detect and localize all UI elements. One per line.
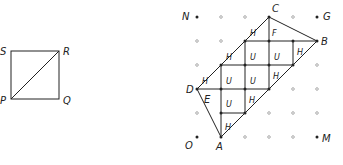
label-p: P [0,95,7,106]
grid-dot [268,136,271,139]
cell-label: U [250,53,256,62]
cell-label: H [249,96,255,105]
geometry-diagram: S R P Q HFHUUHHUUHEUHH N G O M C B D A [0,0,343,165]
grid-dot [196,112,199,115]
grid-dot [196,16,199,19]
cell-label: U [250,77,256,86]
cell-label: H [202,77,208,86]
cell-label: H [226,53,232,62]
grid-dot [196,64,199,67]
label-n: N [182,11,190,22]
cell-label: H [297,48,303,57]
cell-label: F [272,29,277,38]
grid-dot [220,40,223,43]
label-r: R [63,46,70,57]
label-g: G [323,11,331,22]
cell-label: U [226,100,232,109]
cell-label: H [225,123,231,132]
square-pqrs: S R P Q [0,46,71,106]
grid-dot [316,16,319,19]
grid-dot [292,136,295,139]
cell-label: H [250,29,256,38]
grid-dot [316,64,319,67]
grid-dot [292,16,295,19]
grid-dot [244,16,247,19]
dot-grid [196,16,319,139]
grid-dot [244,136,247,139]
label-a: A [215,141,223,152]
cell-labels: HFHUUHHUUHEUHH [202,29,303,132]
grid-dot [268,112,271,115]
grid-dot [292,112,295,115]
grid-dot [220,16,223,19]
label-b: B [321,36,328,47]
grid-dot [292,88,295,91]
label-d: D [186,84,194,95]
grid-dot [316,88,319,91]
grid-dot [316,112,319,115]
label-o: O [185,140,193,151]
grid-dot [196,40,199,43]
cell-label: E [204,94,211,105]
label-c: C [272,3,279,14]
cell-label: U [274,53,280,62]
grid-dot [316,136,319,139]
label-m: M [322,133,331,144]
label-s: S [0,46,7,57]
hexomino-figure [197,17,317,137]
cell-label: U [226,77,232,86]
cell-label: H [273,72,279,81]
label-q: Q [63,95,71,106]
grid-dot [196,136,199,139]
